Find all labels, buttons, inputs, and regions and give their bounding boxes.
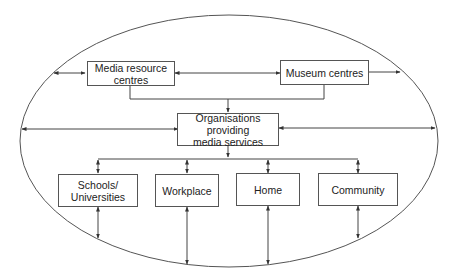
node-label: Workplace: [162, 185, 211, 197]
node-label: Home: [254, 184, 282, 196]
node-label-line2: Universities: [71, 191, 125, 203]
node-workplace: Workplace: [155, 174, 219, 207]
node-label: Community: [331, 184, 384, 196]
node-museum-centres: Museum centres: [280, 60, 369, 85]
edge-media-to-org: [130, 85, 324, 99]
node-schools-universities: Schools/ Universities: [58, 174, 138, 207]
node-label-line1: Organisations providing: [178, 112, 278, 136]
node-label: Museum centres: [286, 67, 364, 79]
node-label-line1: Schools/: [71, 179, 125, 191]
node-organisations-media-services: Organisations providing media services: [177, 113, 279, 146]
node-label-line2: media services: [178, 136, 278, 148]
node-label-line1: Media resource: [95, 62, 167, 74]
node-media-resource-centres: Media resource centres: [87, 61, 175, 86]
node-home: Home: [236, 173, 300, 206]
node-community: Community: [318, 173, 398, 206]
node-label-line2: centres: [95, 74, 167, 86]
